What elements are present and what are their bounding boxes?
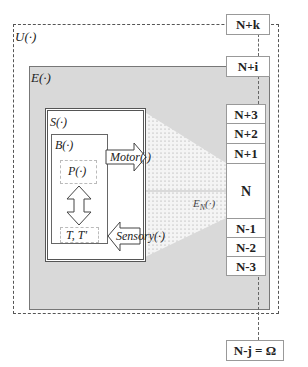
sensory-label: Sensory(·): [116, 229, 165, 244]
level-n-minus-1: N-1: [226, 219, 266, 238]
level-n-plus-3: N+3: [226, 104, 266, 124]
connector-top: [258, 34, 259, 56]
level-n-plus-2: N+2: [226, 124, 266, 144]
level-n-minus-3: N-3: [226, 257, 266, 276]
motor-label: Motor(·): [110, 150, 151, 165]
level-stack: N+3 N+2 N+1 N N-1 N-2 N-3: [226, 104, 266, 276]
connector-bottom: [258, 272, 259, 340]
level-upper: N+i: [226, 56, 270, 77]
connector-mid: [258, 76, 259, 104]
level-n-minus-2: N-2: [226, 238, 266, 257]
double-arrow-icon: [67, 186, 91, 225]
level-n-plus-1: N+1: [226, 144, 266, 164]
level-n: N: [226, 164, 266, 219]
level-top: N+k: [226, 14, 270, 35]
level-bottom: N-j = Ω: [226, 340, 284, 361]
